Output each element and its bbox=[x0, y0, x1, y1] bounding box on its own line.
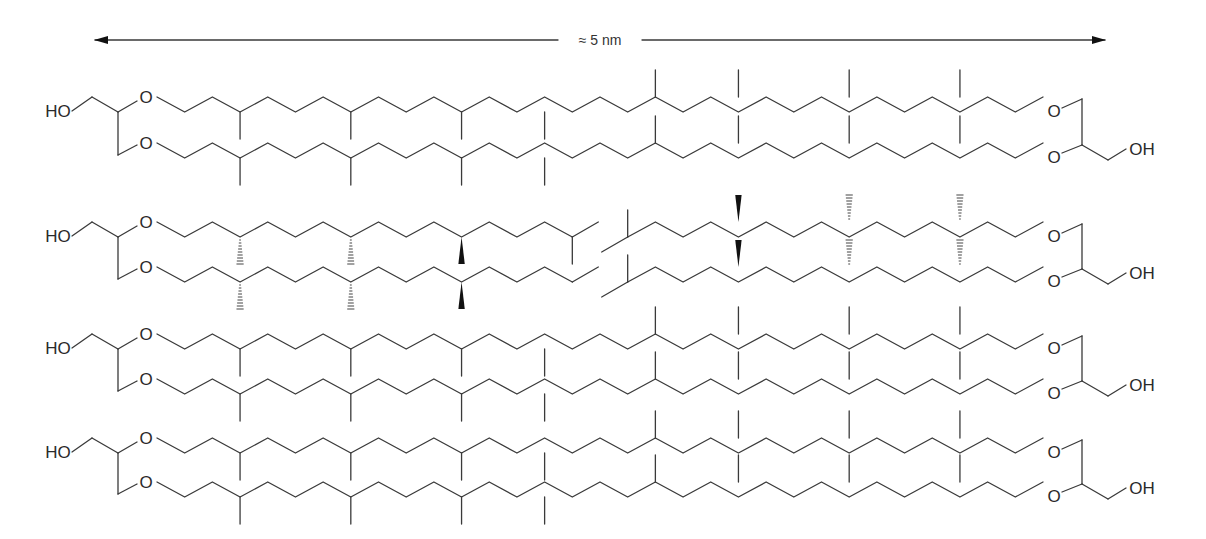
hydroxyl-right: OH bbox=[1129, 140, 1155, 159]
bond-ch2-o bbox=[118, 145, 137, 155]
bond-ch-o bbox=[118, 226, 137, 237]
isoprenoid-chain-bottom bbox=[157, 379, 1043, 394]
ether-oxygen-top-left: O bbox=[139, 213, 152, 232]
ether-oxygen-top-left: O bbox=[139, 88, 152, 107]
bond-ch2-o bbox=[118, 269, 137, 279]
bond-ch2-ch bbox=[92, 97, 118, 112]
isoprenoid-chain-bottom bbox=[157, 482, 1043, 497]
terminal-bond bbox=[572, 222, 598, 237]
bond-o-ch2 bbox=[1062, 440, 1082, 449]
wedge-bond bbox=[735, 240, 741, 267]
lipid-structure-diagram: ≈ 5 nm HOOOOOOHHOOOOOOHHOOOOOOHHOOOOOOH bbox=[0, 0, 1206, 539]
bond-ch-o bbox=[118, 338, 137, 349]
terminal-bond bbox=[602, 237, 628, 252]
bond-ch-ch2 bbox=[1082, 484, 1108, 499]
bond-o-ch2 bbox=[1062, 99, 1082, 108]
bond-ch-o bbox=[118, 101, 137, 112]
bond-ch2-oh bbox=[1108, 273, 1126, 284]
bond-o-ch bbox=[1062, 484, 1082, 492]
scale-label: ≈ 5 nm bbox=[579, 32, 622, 48]
lipid-row-3: HOOOOOOH bbox=[45, 307, 1155, 421]
lipid-rows: HOOOOOOHHOOOOOOHHOOOOOOHHOOOOOOH bbox=[45, 70, 1155, 524]
bond-o-ch bbox=[1062, 269, 1082, 277]
bond-ch2-ch bbox=[92, 222, 118, 237]
hydroxyl-left: HO bbox=[45, 102, 71, 121]
bond-ch2-ch bbox=[92, 438, 118, 453]
isoprenoid-chain-top bbox=[157, 97, 1043, 112]
wedge-bond bbox=[458, 282, 464, 309]
scale-bar: ≈ 5 nm bbox=[95, 32, 1105, 48]
ether-oxygen-bottom-left: O bbox=[139, 473, 152, 492]
bond-ho-ch2 bbox=[72, 97, 92, 111]
bond-ho-ch2 bbox=[72, 438, 92, 452]
bond-ch-ch2 bbox=[1082, 381, 1108, 396]
ether-oxygen-bottom-right: O bbox=[1047, 148, 1060, 167]
ether-oxygen-top-right: O bbox=[1047, 339, 1060, 358]
wedge-bond bbox=[735, 195, 741, 222]
ether-oxygen-bottom-left: O bbox=[139, 134, 152, 153]
isoprenoid-chain-bottom-right bbox=[628, 267, 1043, 282]
bond-ho-ch2 bbox=[72, 222, 92, 236]
bond-ch2-o bbox=[118, 381, 137, 391]
wedge-bond bbox=[458, 237, 464, 264]
bond-ch2-oh bbox=[1108, 149, 1126, 160]
isoprenoid-chain-bottom bbox=[157, 143, 1043, 158]
lipid-row-4: HOOOOOOH bbox=[45, 411, 1155, 524]
ether-oxygen-top-right: O bbox=[1047, 227, 1060, 246]
isoprenoid-chain-bottom-left bbox=[157, 267, 572, 282]
bond-ho-ch2 bbox=[72, 334, 92, 348]
isoprenoid-chain-top bbox=[157, 334, 1043, 349]
ether-oxygen-bottom-left: O bbox=[139, 370, 152, 389]
ether-oxygen-top-left: O bbox=[139, 429, 152, 448]
bond-o-ch2 bbox=[1062, 224, 1082, 233]
hydroxyl-right: OH bbox=[1129, 264, 1155, 283]
bond-o-ch2 bbox=[1062, 336, 1082, 345]
ether-oxygen-top-right: O bbox=[1047, 102, 1060, 121]
bond-ch2-oh bbox=[1108, 488, 1126, 499]
hydroxyl-right: OH bbox=[1129, 376, 1155, 395]
ether-oxygen-top-left: O bbox=[139, 325, 152, 344]
bond-ch2-o bbox=[118, 484, 137, 494]
bond-o-ch bbox=[1062, 381, 1082, 389]
hydroxyl-left: HO bbox=[45, 339, 71, 358]
hydroxyl-left: HO bbox=[45, 443, 71, 462]
terminal-bond bbox=[602, 282, 628, 297]
bond-ch-ch2 bbox=[1082, 145, 1108, 160]
hydroxyl-left: HO bbox=[45, 227, 71, 246]
bond-ch-ch2 bbox=[1082, 269, 1108, 284]
ether-oxygen-bottom-left: O bbox=[139, 258, 152, 277]
bond-o-ch bbox=[1062, 145, 1082, 153]
bond-ch-o bbox=[118, 442, 137, 453]
terminal-bond bbox=[572, 267, 598, 282]
ether-oxygen-bottom-right: O bbox=[1047, 272, 1060, 291]
isoprenoid-chain-top bbox=[157, 438, 1043, 453]
ether-oxygen-top-right: O bbox=[1047, 443, 1060, 462]
ether-oxygen-bottom-right: O bbox=[1047, 384, 1060, 403]
bond-ch2-oh bbox=[1108, 385, 1126, 396]
isoprenoid-chain-top-left bbox=[157, 222, 572, 237]
ether-oxygen-bottom-right: O bbox=[1047, 487, 1060, 506]
isoprenoid-chain-top-right bbox=[628, 222, 1043, 237]
lipid-row-1: HOOOOOOH bbox=[45, 70, 1155, 185]
bond-ch2-ch bbox=[92, 334, 118, 349]
lipid-row-2: HOOOOOOH bbox=[45, 195, 1155, 309]
hydroxyl-right: OH bbox=[1129, 479, 1155, 498]
